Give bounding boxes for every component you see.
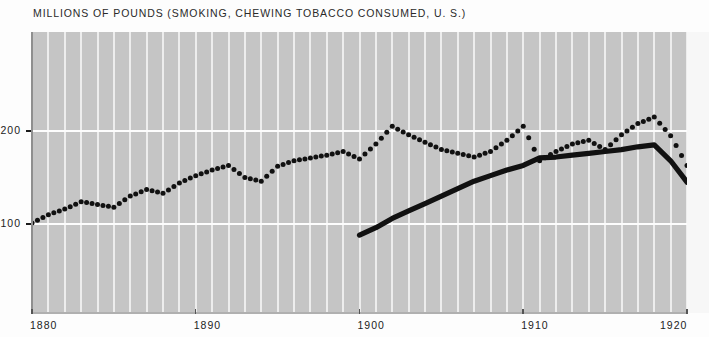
dot-1903 xyxy=(406,132,411,137)
dot-1892-1 xyxy=(231,167,236,172)
dot-1889-2 xyxy=(188,176,193,181)
dot-1905 xyxy=(439,147,444,152)
dot-1891-1 xyxy=(215,166,220,171)
x-axis: 18801890190019101920 xyxy=(0,313,709,337)
dot-1900-1 xyxy=(362,151,367,156)
dot-1888 xyxy=(161,191,166,196)
dot-1908 xyxy=(488,149,493,154)
dot-1900 xyxy=(357,156,362,161)
page-title: MILLIONS OF POUNDS (SMOKING, CHEWING TOB… xyxy=(33,7,466,19)
dot-1897-1 xyxy=(313,155,318,160)
dot-1914-1 xyxy=(592,141,597,146)
dot-1918-1 xyxy=(657,121,662,126)
dot-1883-1 xyxy=(84,200,89,205)
dot-1909 xyxy=(504,138,509,143)
dot-1899 xyxy=(341,149,346,154)
dot-1914 xyxy=(586,138,591,143)
y-tick-label-200: 200 xyxy=(0,124,21,136)
dot-1917-1 xyxy=(641,119,646,124)
dot-1912-1 xyxy=(559,146,564,151)
dot-1886-2 xyxy=(139,189,144,194)
dot-1893 xyxy=(242,175,247,180)
dot-1886-1 xyxy=(133,191,138,196)
dot-1893-1 xyxy=(248,176,253,181)
chewing-tobacco-solid-line xyxy=(360,145,688,235)
dot-1897-2 xyxy=(319,154,324,159)
series-layer xyxy=(32,32,687,313)
dot-1892-2 xyxy=(237,171,242,176)
dot-1891-2 xyxy=(221,164,226,169)
dot-1916 xyxy=(619,132,624,137)
y-tick-200 xyxy=(26,130,31,132)
x-tick-1920 xyxy=(686,309,688,314)
dot-1887-2 xyxy=(155,190,160,195)
dot-1907 xyxy=(472,155,477,160)
dot-1885-2 xyxy=(122,197,127,202)
smoking-tobacco-dotted-line xyxy=(32,115,687,226)
dot-1902-1 xyxy=(395,127,400,132)
x-tick-1900 xyxy=(359,309,361,314)
dot-1890-1 xyxy=(199,171,204,176)
dot-1881-1 xyxy=(51,210,56,215)
dot-1915-2 xyxy=(614,137,619,142)
dot-1904-2 xyxy=(433,145,438,150)
dot-1913 xyxy=(570,142,575,147)
x-tick-1880 xyxy=(31,309,33,314)
dot-1914-2 xyxy=(597,144,602,149)
dot-1916-2 xyxy=(630,125,635,130)
dot-1918-2 xyxy=(663,127,668,132)
dot-1897 xyxy=(308,155,313,160)
chart-page: MILLIONS OF POUNDS (SMOKING, CHEWING TOB… xyxy=(0,0,709,337)
y-tick-100 xyxy=(26,223,31,225)
dot-1899-1 xyxy=(346,151,351,156)
x-tick-label-1900: 1900 xyxy=(358,319,385,331)
dot-1882-1 xyxy=(68,204,73,209)
dot-1885-1 xyxy=(117,201,122,206)
dot-1909-2 xyxy=(515,129,520,134)
dot-1901-2 xyxy=(384,130,389,135)
dot-1907-1 xyxy=(477,153,482,158)
dot-1884-2 xyxy=(106,204,111,209)
dot-1902-2 xyxy=(401,129,406,134)
dot-1910-2 xyxy=(532,147,537,152)
dot-1894 xyxy=(259,179,264,184)
dot-1883 xyxy=(79,199,84,204)
dot-1900-2 xyxy=(368,146,373,151)
dot-1898-1 xyxy=(330,151,335,156)
dot-1884 xyxy=(95,202,100,207)
dot-1906-1 xyxy=(461,152,466,157)
solid-series-path xyxy=(360,145,688,235)
dot-1901 xyxy=(373,142,378,147)
dot-1891 xyxy=(210,168,215,173)
dot-1904-1 xyxy=(428,142,433,147)
dot-1919-2 xyxy=(679,153,684,158)
dot-1882 xyxy=(62,207,67,212)
x-tick-1890 xyxy=(195,309,197,314)
dot-1880-1 xyxy=(35,218,40,223)
dot-1905-1 xyxy=(444,148,449,153)
dot-1906 xyxy=(455,151,460,156)
dot-1882-2 xyxy=(73,202,78,207)
dot-1884-1 xyxy=(100,203,105,208)
dot-1907-2 xyxy=(483,151,488,156)
dot-1910-1 xyxy=(526,135,531,140)
dot-1885 xyxy=(111,205,116,210)
x-tick-1910 xyxy=(522,309,524,314)
dot-1895-1 xyxy=(281,162,286,167)
dot-1917 xyxy=(635,121,640,126)
dot-1913-1 xyxy=(575,140,580,145)
dot-1915-1 xyxy=(608,142,613,147)
y-axis-rule xyxy=(31,32,33,313)
y-axis: 100200 xyxy=(0,32,29,313)
dot-1912 xyxy=(554,149,559,154)
dot-1894-2 xyxy=(270,169,275,174)
x-tick-label-1910: 1910 xyxy=(521,319,548,331)
dot-1880-2 xyxy=(40,215,45,220)
plot-area xyxy=(32,32,687,313)
dot-1896-2 xyxy=(302,156,307,161)
dot-1913-2 xyxy=(581,139,586,144)
dot-1888-2 xyxy=(171,184,176,189)
dot-1918 xyxy=(652,115,657,120)
dot-1904 xyxy=(423,140,428,145)
dot-1890 xyxy=(193,173,198,178)
